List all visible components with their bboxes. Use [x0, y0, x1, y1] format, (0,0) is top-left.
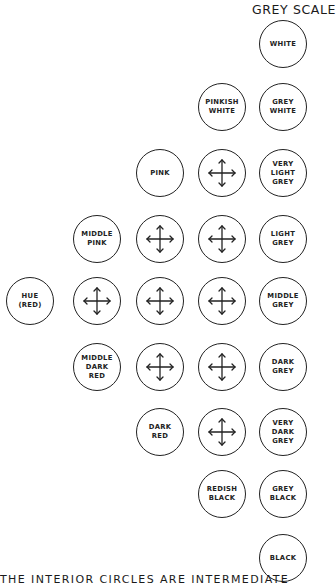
circle-label: LIGHT GREY — [271, 230, 295, 248]
circle-label: DARK RED — [149, 423, 172, 441]
circle-label: MIDDLE PINK — [81, 230, 112, 248]
four-way-arrow-icon — [143, 284, 177, 318]
circle-intermediate — [136, 277, 184, 325]
circle-pink: PINK — [136, 149, 184, 197]
circle-middle-pink: MIDDLE PINK — [73, 215, 121, 263]
circle-grey-black: GREY BLACK — [259, 470, 307, 518]
circle-label: GREY WHITE — [270, 98, 297, 116]
four-way-arrow-icon — [80, 284, 114, 318]
four-way-arrow-icon — [205, 415, 239, 449]
circle-label: WHITE — [270, 40, 297, 49]
four-way-arrow-icon — [205, 156, 239, 190]
circle-label: GREY BLACK — [270, 485, 297, 503]
circle-pinkish-white: PINKISH WHITE — [198, 83, 246, 131]
circle-dark-grey: DARK GREY — [259, 343, 307, 391]
caption-text: THE INTERIOR CIRCLES ARE INTERMEDIATE — [0, 573, 289, 586]
circle-white: WHITE — [259, 20, 307, 68]
circle-redish-black: REDISH BLACK — [198, 470, 246, 518]
circle-middle-dark-red: MIDDLE DARK RED — [73, 343, 121, 391]
circle-light-grey: LIGHT GREY — [259, 215, 307, 263]
four-way-arrow-icon — [205, 284, 239, 318]
circle-very-light-grey: VERY LIGHT GREY — [259, 149, 307, 197]
circle-hue-red: HUE (RED) — [6, 277, 54, 325]
circle-label: PINK — [150, 169, 170, 178]
circle-label: VERY DARK GREY — [272, 419, 295, 446]
circle-label: BLACK — [270, 554, 297, 563]
circle-intermediate — [136, 215, 184, 263]
circle-intermediate — [136, 343, 184, 391]
circle-intermediate — [198, 408, 246, 456]
circle-label: VERY LIGHT GREY — [271, 160, 295, 187]
circle-label: PINKISH WHITE — [205, 98, 239, 116]
circle-intermediate — [198, 277, 246, 325]
circle-very-dark-grey: VERY DARK GREY — [259, 408, 307, 456]
circle-label: REDISH BLACK — [207, 485, 237, 503]
circle-intermediate — [198, 343, 246, 391]
circle-label: MIDDLE DARK RED — [81, 354, 112, 381]
four-way-arrow-icon — [143, 350, 177, 384]
circle-label: MIDDLE GREY — [267, 292, 298, 310]
circle-dark-red: DARK RED — [136, 408, 184, 456]
four-way-arrow-icon — [205, 350, 239, 384]
circle-intermediate — [73, 277, 121, 325]
circle-label: HUE (RED) — [18, 292, 41, 310]
grey-scale-title: GREY SCALE — [252, 2, 336, 17]
circle-intermediate — [198, 149, 246, 197]
four-way-arrow-icon — [205, 222, 239, 256]
circle-middle-grey: MIDDLE GREY — [259, 277, 307, 325]
four-way-arrow-icon — [143, 222, 177, 256]
circle-grey-white: GREY WHITE — [259, 83, 307, 131]
circle-intermediate — [198, 215, 246, 263]
circle-label: DARK GREY — [272, 358, 295, 376]
